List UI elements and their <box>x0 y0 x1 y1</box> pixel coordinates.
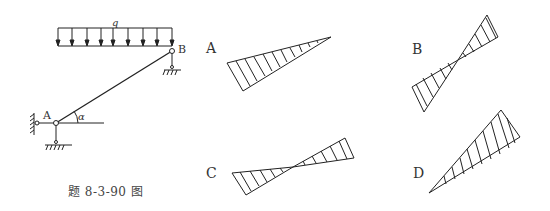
angle-label: α <box>78 111 85 122</box>
support-a <box>30 113 72 150</box>
diagram-canvas: q B A α A B <box>0 0 550 211</box>
load-label-q: q <box>112 17 118 28</box>
structure-figure <box>30 28 181 150</box>
load-arrows <box>56 28 174 46</box>
option-c-diagram <box>232 138 354 195</box>
option-a-label: A <box>205 40 217 56</box>
option-b-diagram <box>412 15 498 112</box>
inclined-beam <box>56 51 172 123</box>
option-d-label: D <box>413 165 424 181</box>
option-d-diagram <box>429 110 520 193</box>
option-b-label: B <box>412 41 422 57</box>
node-label-a: A <box>42 109 52 122</box>
distributed-load <box>56 28 174 46</box>
option-a-diagram <box>227 37 331 91</box>
option-c-label: C <box>206 165 217 181</box>
figure-caption: 题 8-3-90 图 <box>68 182 143 199</box>
node-label-b: B <box>178 43 186 56</box>
